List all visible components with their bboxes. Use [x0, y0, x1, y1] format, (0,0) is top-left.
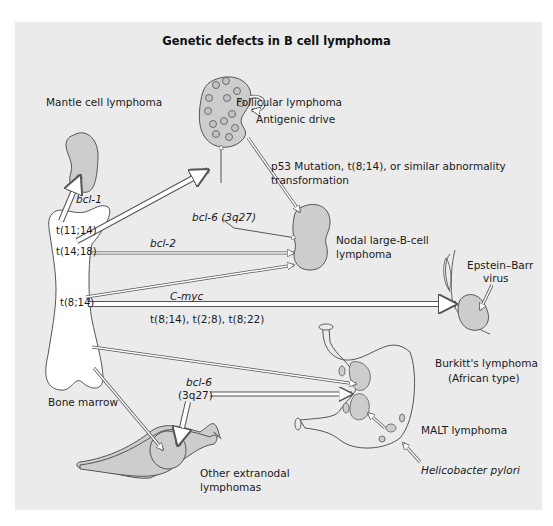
mantle-cell-node-shape [66, 133, 98, 193]
label-ebv-line2: virus [483, 272, 509, 285]
label-cmyc: C-myc [170, 290, 203, 303]
follicular-node [199, 77, 263, 147]
label-follicular: Follicular lymphoma [236, 96, 342, 109]
label-bcl2: bcl-2 [150, 237, 176, 250]
label-bone-marrow: Bone marrow [48, 396, 118, 409]
label-ebv-line1: Epstein–Barr [467, 259, 533, 272]
label-antigenic-drive: Antigenic drive [256, 113, 335, 126]
label-t14-18: t(14;18) [56, 245, 97, 258]
label-bcl6-bottom-line2: (3q27) [178, 389, 213, 402]
label-burkitt-line1: Burkitt's lymphoma [435, 357, 538, 370]
label-bcl6-top: bcl-6 (3q27) [192, 211, 256, 224]
label-t8-14: t(8;14) [60, 296, 94, 309]
label-p53-line2: transformation [271, 174, 349, 187]
label-nodal-line2: lymphoma [336, 248, 392, 261]
nodal-large-b-cell-node-shape [293, 204, 330, 270]
label-t11-14: t(11;14) [56, 224, 97, 237]
label-bcl1: bcl-1 [76, 193, 102, 206]
label-burkitt-line2: (African type) [448, 372, 520, 385]
label-other-line1: Other extranodal [200, 467, 290, 480]
label-malt: MALT lymphoma [421, 424, 507, 437]
label-p53-line1: p53 Mutation, t(8;14), or similar abnorm… [271, 160, 506, 173]
label-mantle-cell: Mantle cell lymphoma [46, 96, 162, 109]
label-translocations: t(8;14), t(2;8), t(8;22) [150, 313, 264, 326]
label-other-line2: lymphomas [200, 481, 261, 494]
diagram-title: Genetic defects in B cell lymphoma [0, 34, 553, 48]
label-h-pylori: Helicobacter pylori [421, 464, 520, 477]
label-bcl6-bottom-line1: bcl-6 [186, 376, 212, 389]
label-nodal-line1: Nodal large-B-cell [336, 234, 429, 247]
stomach [295, 324, 415, 448]
